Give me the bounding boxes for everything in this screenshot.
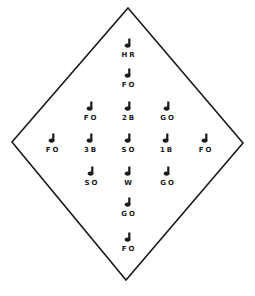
result-label: SO — [76, 179, 106, 187]
player-icon — [123, 197, 133, 207]
player-marker-so: SO — [76, 166, 106, 187]
player-icon — [123, 101, 133, 111]
result-label: 3B — [75, 146, 105, 154]
player-icon — [47, 133, 57, 143]
player-marker-go: GO — [152, 166, 182, 187]
player-icon — [162, 101, 172, 111]
result-label: GO — [152, 114, 182, 122]
result-label: SO — [113, 146, 143, 154]
player-icon — [162, 166, 172, 176]
result-label: FO — [37, 146, 67, 154]
player-marker-fo: FO — [113, 232, 143, 253]
player-marker-w: W — [113, 166, 143, 187]
baseball-diamond-diagram: HR FO FO 2B GO FO 3B SO — [0, 0, 255, 296]
player-icon — [123, 232, 133, 242]
result-label: W — [113, 179, 143, 187]
player-icon — [200, 133, 210, 143]
player-marker-fo: FO — [75, 101, 105, 122]
player-marker-so: SO — [113, 133, 143, 154]
result-label: HR — [113, 51, 143, 59]
result-label: 2B — [113, 114, 143, 122]
player-icon — [85, 133, 95, 143]
result-label: 1B — [151, 146, 181, 154]
result-label: FO — [190, 146, 220, 154]
player-marker-go: GO — [152, 101, 182, 122]
result-label: FO — [75, 114, 105, 122]
result-label: GO — [152, 179, 182, 187]
player-icon — [86, 166, 96, 176]
player-icon — [123, 166, 133, 176]
player-marker-go: GO — [113, 197, 143, 218]
result-label: GO — [113, 210, 143, 218]
player-icon — [161, 133, 171, 143]
result-label: FO — [113, 81, 143, 89]
player-marker-fo: FO — [113, 68, 143, 89]
player-icon — [123, 68, 133, 78]
result-label: FO — [113, 245, 143, 253]
player-marker-3b: 3B — [75, 133, 105, 154]
player-icon — [123, 133, 133, 143]
player-marker-fo: FO — [190, 133, 220, 154]
player-icon — [85, 101, 95, 111]
player-marker-hr: HR — [113, 38, 143, 59]
player-marker-2b: 2B — [113, 101, 143, 122]
player-icon — [123, 38, 133, 48]
player-marker-1b: 1B — [151, 133, 181, 154]
player-marker-fo: FO — [37, 133, 67, 154]
